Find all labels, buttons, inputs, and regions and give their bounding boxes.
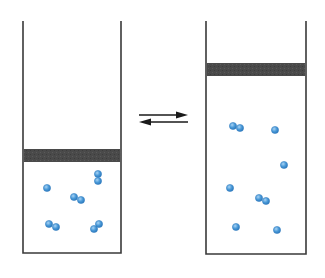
piston-equilibrium-diagram <box>0 0 325 278</box>
container-left <box>23 21 121 253</box>
equilibrium-arrows <box>139 112 188 126</box>
gas-molecule <box>70 193 77 200</box>
container-right <box>206 21 306 254</box>
gas-molecule <box>77 196 84 203</box>
container-wall <box>23 21 121 253</box>
gas-molecule <box>94 170 101 177</box>
gas-molecule <box>232 223 239 230</box>
gas-molecule <box>255 194 262 201</box>
gas-molecule <box>94 177 101 184</box>
gas-molecule <box>229 122 236 129</box>
gas-molecule <box>226 184 233 191</box>
reverse-arrow-icon <box>139 119 188 126</box>
gas-molecule <box>45 220 52 227</box>
piston <box>24 149 120 162</box>
gas-molecule <box>280 161 287 168</box>
gas-molecule <box>271 126 278 133</box>
forward-arrow-icon <box>139 112 188 119</box>
gas-molecule <box>52 223 59 230</box>
container-wall <box>206 21 306 254</box>
gas-molecule <box>90 225 97 232</box>
gas-molecule <box>273 226 280 233</box>
piston <box>207 63 305 76</box>
gas-molecule <box>236 124 243 131</box>
gas-molecule <box>262 197 269 204</box>
gas-molecule <box>43 184 50 191</box>
